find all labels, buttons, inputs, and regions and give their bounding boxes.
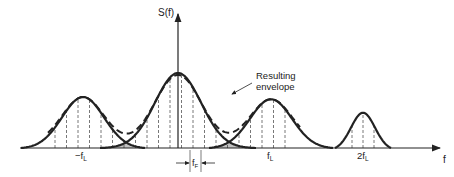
x-axis-label: f	[443, 154, 446, 165]
lobe-minus-fl	[21, 97, 145, 148]
spacing-label: fF	[192, 158, 199, 169]
envelope-leader-arrow	[232, 83, 252, 94]
tick-label-2fl: 2fL	[357, 150, 369, 162]
annotation-line-2: envelope	[256, 81, 295, 92]
tick-label-fl: fL	[267, 150, 274, 162]
sample-lines	[55, 74, 374, 148]
diagram-canvas: S(f) f Resulting envelope −fL fL 2fL fF	[0, 0, 454, 177]
spectrum-diagram: S(f) f Resulting envelope −fL fL 2fL fF	[0, 0, 454, 177]
tick-label-neg-fl: −fL	[75, 150, 87, 162]
annotation-line-1: Resulting	[256, 70, 296, 81]
y-axis-label: S(f)	[158, 7, 174, 18]
